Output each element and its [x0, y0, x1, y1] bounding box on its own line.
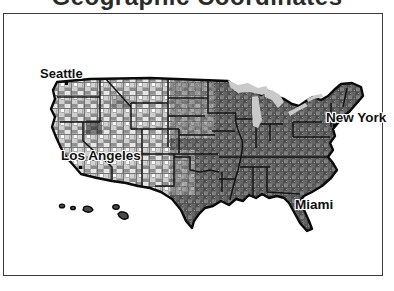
los-angeles-marker — [79, 166, 82, 169]
seattle-marker — [65, 82, 68, 85]
us-map — [0, 0, 394, 291]
city-label-seattle: Seattle — [40, 66, 83, 81]
map-canvas: Seattle Los Angeles New York Miami — [0, 0, 394, 291]
hawaii-islands — [59, 204, 128, 219]
city-label-new-york: New York — [326, 110, 386, 125]
city-label-los-angeles: Los Angeles — [61, 148, 141, 163]
city-label-miami: Miami — [295, 197, 333, 212]
